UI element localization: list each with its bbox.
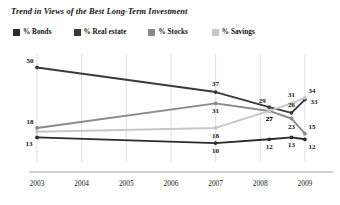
- data-point-value-label: 31: [212, 107, 220, 115]
- x-axis-tick-label: 2007: [208, 179, 223, 188]
- data-point-value-label: 15: [308, 123, 316, 131]
- data-point-marker[interactable]: [303, 96, 307, 100]
- data-point-marker[interactable]: [35, 136, 39, 140]
- data-point-value-label: 10: [212, 147, 220, 155]
- data-point-value-label: 13: [288, 141, 296, 149]
- chart-container: Trend in Views of the Best Long-Term Inv…: [0, 0, 340, 205]
- data-point-value-label: 37: [212, 80, 220, 88]
- x-axis-tick-label: 2006: [164, 179, 179, 188]
- data-point-value-label: 29: [259, 97, 267, 105]
- data-point-marker[interactable]: [290, 136, 294, 140]
- data-point-value-label: 34: [308, 87, 316, 95]
- data-point-value-label: 31: [288, 91, 296, 99]
- x-axis-tick-label: 2005: [119, 179, 134, 188]
- data-point-marker[interactable]: [214, 141, 218, 145]
- data-point-value-label: 18: [212, 132, 220, 140]
- line-chart-svg: 2003200420052006200720082009503729263318…: [0, 0, 340, 205]
- data-point-marker[interactable]: [267, 105, 271, 109]
- x-axis-tick-label: 2009: [298, 179, 313, 188]
- plot-area: 2003200420052006200720082009503729263318…: [0, 0, 340, 205]
- data-point-value-label: 50: [27, 57, 35, 65]
- data-point-marker[interactable]: [303, 137, 307, 141]
- data-point-value-label: 23: [288, 123, 296, 131]
- x-axis-tick-label: 2003: [30, 179, 45, 188]
- data-point-marker[interactable]: [267, 137, 271, 141]
- data-point-marker[interactable]: [214, 90, 218, 94]
- data-point-marker[interactable]: [267, 109, 271, 113]
- data-point-marker[interactable]: [303, 132, 307, 136]
- data-point-value-label: 13: [26, 140, 34, 148]
- data-point-marker[interactable]: [290, 111, 294, 115]
- data-point-value-label: 18: [27, 118, 35, 126]
- data-point-marker[interactable]: [35, 130, 39, 134]
- x-axis-tick-label: 2004: [74, 179, 89, 188]
- data-point-value-label: 12: [308, 143, 316, 151]
- data-point-value-label: 26: [288, 101, 296, 109]
- data-point-value-label: 27: [266, 115, 274, 123]
- data-point-marker[interactable]: [35, 126, 39, 130]
- data-point-value-label: 33: [310, 98, 318, 106]
- data-point-marker[interactable]: [290, 117, 294, 121]
- data-point-marker[interactable]: [214, 126, 218, 130]
- x-axis-tick-label: 2008: [253, 179, 268, 188]
- data-point-value-label: 12: [266, 143, 274, 151]
- data-point-marker[interactable]: [214, 101, 218, 105]
- data-point-marker[interactable]: [35, 66, 39, 70]
